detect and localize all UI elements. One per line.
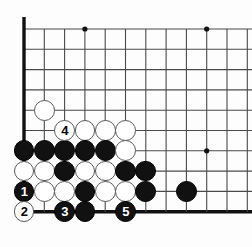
go-board-diagram: 41235 — [0, 0, 252, 247]
white-stone-approach — [34, 100, 55, 121]
black-stone-r8-c8 — [176, 181, 197, 202]
black-stone-r7-c2 — [54, 161, 75, 182]
black-stone-r6-c2 — [54, 140, 75, 161]
white-stone-r8-c2 — [54, 181, 75, 202]
stone-move-number: 3 — [61, 205, 68, 218]
black-stone-r8-c3 — [75, 181, 96, 202]
black-stone-move-3: 3 — [54, 201, 75, 222]
white-stone-r8-c4 — [95, 181, 116, 202]
white-stone-r7-c1 — [34, 161, 55, 182]
board-stones: 41235 — [0, 0, 252, 247]
black-stone-r7-c6 — [135, 161, 156, 182]
stone-move-number: 1 — [21, 184, 28, 197]
white-stone-r8-c1 — [34, 181, 55, 202]
white-stone-r7-c3 — [75, 161, 96, 182]
stone-move-number: 4 — [61, 123, 68, 136]
white-stone-r5-c4 — [95, 120, 116, 141]
black-stone-r6-c0 — [14, 140, 35, 161]
white-stone-move-2: 2 — [14, 201, 35, 222]
stone-move-number: 5 — [122, 205, 129, 218]
white-stone-r7-c0 — [14, 161, 35, 182]
black-stone-r8-c6 — [135, 181, 156, 202]
stone-move-number: 2 — [21, 205, 28, 218]
black-stone-r6-c1 — [34, 140, 55, 161]
white-stone-r6-c5 — [115, 140, 136, 161]
black-stone-r6-c3 — [75, 140, 96, 161]
black-stone-r9-c3 — [75, 201, 96, 222]
black-stone-move-5: 5 — [115, 201, 136, 222]
black-stone-move-1: 1 — [14, 181, 35, 202]
white-stone-r5-c3 — [75, 120, 96, 141]
black-stone-r6-c4 — [95, 140, 116, 161]
white-stone-r8-c5 — [115, 181, 136, 202]
white-stone-r5-c5 — [115, 120, 136, 141]
white-stone-r7-c4 — [95, 161, 116, 182]
white-stone-move-4: 4 — [54, 120, 75, 141]
black-stone-r7-c5 — [115, 161, 136, 182]
